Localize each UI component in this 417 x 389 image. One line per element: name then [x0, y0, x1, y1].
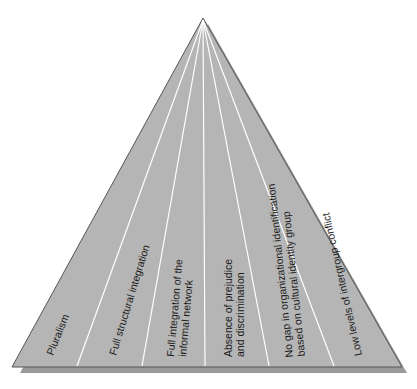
pyramid-diagram: Pluralism Full structural integration Fu…: [0, 0, 417, 389]
section-prejudice: Absence of prejudice and discrimination: [222, 259, 246, 357]
label-prejudice-line2: and discrimination: [234, 272, 246, 357]
label-prejudice-line1: Absence of prejudice: [222, 259, 234, 357]
